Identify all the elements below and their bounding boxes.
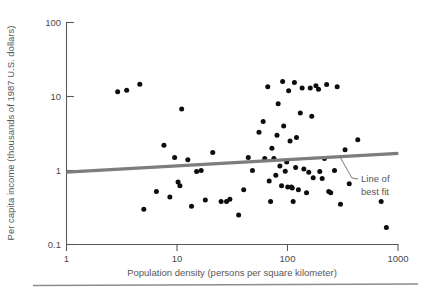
data-point — [306, 170, 311, 175]
data-point — [210, 150, 215, 155]
data-point — [115, 89, 120, 94]
data-point — [301, 166, 306, 171]
data-point — [281, 123, 286, 128]
data-point — [227, 197, 232, 202]
data-point — [124, 88, 129, 93]
data-point — [347, 181, 352, 186]
data-point — [294, 135, 299, 140]
data-point — [185, 157, 190, 162]
x-tick-label-100: 100 — [280, 253, 296, 264]
data-point — [317, 169, 322, 174]
y-tick-label-100: 100 — [45, 17, 61, 28]
data-point — [338, 202, 343, 207]
data-point — [298, 110, 303, 115]
data-point — [335, 84, 340, 89]
data-point — [154, 189, 159, 194]
y-axis-title: Per capita income (thousands of 1987 U.S… — [5, 26, 16, 241]
data-point — [311, 175, 316, 180]
data-point — [250, 168, 255, 173]
data-point — [219, 199, 224, 204]
scatter-plot-figure: 100 10 1 0.1 1 10 100 1000 Population de… — [0, 0, 426, 298]
y-tick-label-0.1: 0.1 — [48, 239, 61, 250]
data-point — [199, 168, 204, 173]
data-point — [167, 194, 172, 199]
data-point — [304, 190, 309, 195]
data-point — [288, 139, 293, 144]
data-point — [280, 79, 285, 84]
fit-line-label-line2: best fit — [361, 186, 389, 197]
x-axis-title: Population density (persons per square k… — [127, 267, 337, 278]
data-point — [137, 82, 142, 87]
data-point — [324, 82, 329, 87]
data-point — [273, 173, 278, 178]
data-point — [261, 119, 266, 124]
data-point — [177, 183, 182, 188]
data-point — [194, 169, 199, 174]
data-point — [296, 187, 301, 192]
data-point — [283, 169, 288, 174]
data-point — [309, 114, 314, 119]
data-point — [290, 186, 295, 191]
y-tick-label-10: 10 — [50, 91, 61, 102]
data-point — [291, 199, 296, 204]
data-point — [286, 88, 291, 93]
data-point — [320, 176, 325, 181]
data-point — [328, 190, 333, 195]
data-point — [355, 137, 360, 142]
x-tick-label-1: 1 — [64, 253, 69, 264]
data-point — [265, 84, 270, 89]
data-point — [256, 130, 261, 135]
data-point — [276, 101, 281, 106]
data-point — [277, 164, 282, 169]
y-tick-label-1: 1 — [56, 165, 61, 176]
data-point — [269, 146, 274, 151]
data-point — [203, 197, 208, 202]
data-point — [332, 168, 337, 173]
data-point — [293, 165, 298, 170]
data-point — [268, 199, 273, 204]
data-point — [300, 86, 305, 91]
data-point — [292, 80, 297, 85]
data-point — [161, 143, 166, 148]
data-point — [279, 183, 284, 188]
chart-svg: 100 10 1 0.1 1 10 100 1000 Population de… — [0, 0, 426, 298]
data-point — [343, 147, 348, 152]
data-point — [274, 133, 279, 138]
data-point — [379, 199, 384, 204]
data-point — [172, 155, 177, 160]
data-point — [189, 204, 194, 209]
data-point — [308, 86, 313, 91]
data-point — [141, 207, 146, 212]
x-tick-label-1000: 1000 — [387, 253, 408, 264]
data-point — [236, 213, 241, 218]
data-point — [384, 225, 389, 230]
data-point — [316, 87, 321, 92]
data-point — [246, 155, 251, 160]
x-tick-label-10: 10 — [172, 253, 183, 264]
data-point — [241, 187, 246, 192]
data-point — [267, 179, 272, 184]
data-point — [179, 106, 184, 111]
fit-line-label-line1: Line of — [361, 173, 390, 184]
